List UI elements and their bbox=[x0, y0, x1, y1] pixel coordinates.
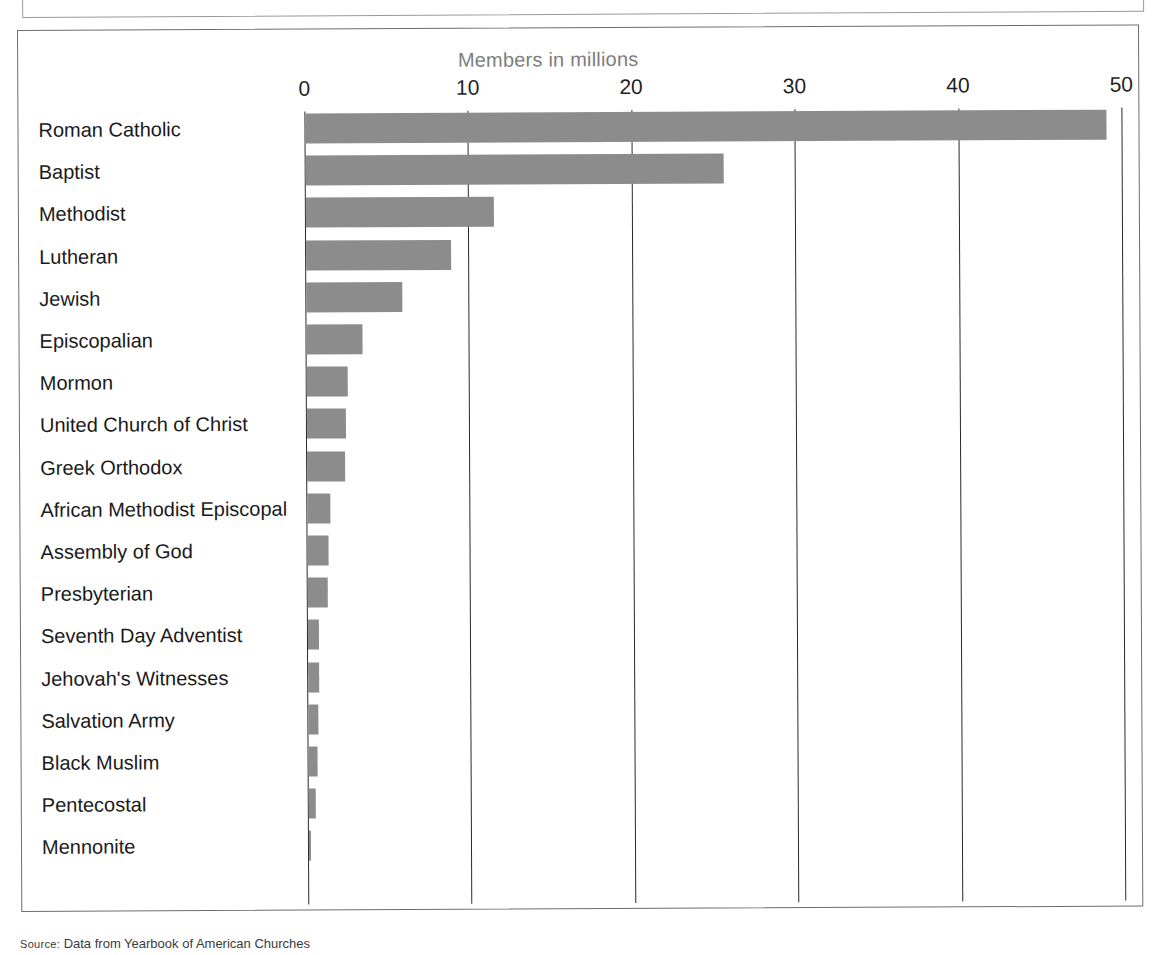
bar bbox=[309, 747, 318, 777]
category-label: Baptist bbox=[39, 156, 301, 187]
axis-title: Members in millions bbox=[18, 46, 1078, 74]
bar bbox=[306, 197, 494, 228]
category-label: Presbyterian bbox=[41, 578, 303, 609]
category-label: Seventh Day Adventist bbox=[41, 620, 303, 651]
x-tick-label-0: 0 bbox=[298, 77, 310, 101]
x-tick-label-10: 10 bbox=[456, 76, 479, 100]
bar bbox=[308, 620, 320, 650]
x-tick-label-50: 50 bbox=[1110, 73, 1133, 97]
bar bbox=[308, 578, 328, 608]
source-caption: Source: Data from Yearbook of American C… bbox=[20, 936, 310, 955]
category-label: Roman Catholic bbox=[38, 114, 300, 145]
x-tick-label-30: 30 bbox=[783, 74, 806, 98]
category-label: Black Muslim bbox=[42, 747, 304, 778]
gridline-20 bbox=[631, 110, 636, 903]
plot-area: Members in millions 01020304050 Roman Ca… bbox=[18, 26, 1142, 911]
gridline-50 bbox=[1121, 108, 1126, 901]
bar bbox=[307, 451, 345, 481]
category-label: Episcopalian bbox=[39, 325, 301, 356]
source-prefix: Source: bbox=[20, 938, 60, 950]
category-labels: Roman CatholicBaptistMethodistLutheranJe… bbox=[18, 26, 1138, 31]
gridlines bbox=[18, 26, 1138, 31]
category-label: Jewish bbox=[39, 282, 301, 313]
category-label: Methodist bbox=[39, 198, 301, 229]
gridline-30 bbox=[795, 109, 800, 902]
bar bbox=[307, 493, 330, 523]
chart-figure: Members in millions 01020304050 Roman Ca… bbox=[17, 25, 1143, 912]
gridline-10 bbox=[468, 111, 473, 904]
x-axis-tick-labels: 01020304050 bbox=[18, 26, 1138, 31]
category-label: Pentecostal bbox=[42, 789, 304, 820]
category-label: Salvation Army bbox=[41, 704, 303, 735]
bar bbox=[306, 239, 452, 270]
bar bbox=[305, 110, 1106, 144]
bar bbox=[307, 409, 346, 439]
bar-series bbox=[18, 26, 1138, 31]
category-label: Mennonite bbox=[42, 831, 304, 862]
bar bbox=[307, 367, 348, 397]
x-tick-label-20: 20 bbox=[619, 75, 642, 99]
bar bbox=[309, 831, 312, 861]
bar bbox=[308, 704, 318, 734]
bar bbox=[308, 662, 319, 692]
category-label: Mormon bbox=[40, 367, 302, 398]
bar bbox=[306, 324, 362, 354]
source-text: Data from Yearbook of American Churches bbox=[64, 936, 310, 951]
x-tick-label-40: 40 bbox=[946, 73, 969, 97]
category-label: African Methodist Episcopal bbox=[40, 493, 302, 524]
category-label: Assembly of God bbox=[40, 536, 302, 567]
bar bbox=[307, 535, 328, 565]
category-label: Greek Orthodox bbox=[40, 451, 302, 482]
bar bbox=[309, 789, 316, 819]
category-label: Jehovah's Witnesses bbox=[41, 662, 303, 693]
clipped-top-box bbox=[22, 0, 1144, 18]
gridline-40 bbox=[958, 108, 963, 901]
category-label: United Church of Christ bbox=[40, 409, 302, 440]
bar bbox=[306, 282, 403, 312]
bar bbox=[306, 154, 724, 186]
category-label: Lutheran bbox=[39, 240, 301, 271]
